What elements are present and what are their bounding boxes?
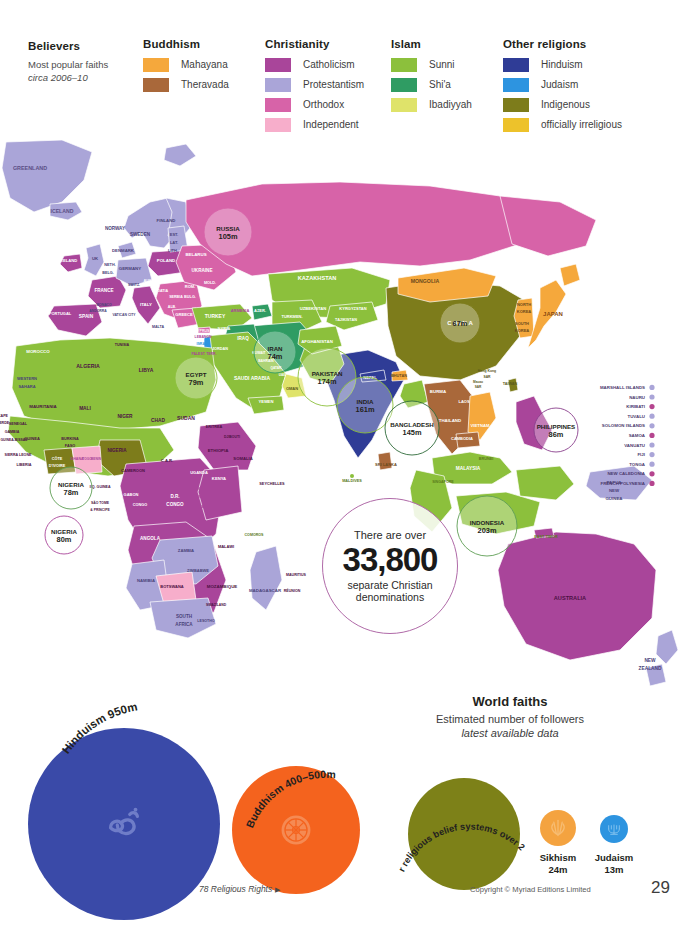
population-bubble[interactable]: RUSSIA105m [204, 208, 252, 256]
pacific-island-label: KIRIBATI [626, 404, 645, 409]
pacific-island-dot [649, 404, 654, 409]
legend-item-sunni[interactable]: Sunni [391, 57, 472, 72]
population-bubble[interactable]: BANGLADESH145m [385, 401, 439, 455]
legend-item-independent[interactable]: Independent [265, 117, 364, 132]
bubble-country-name: EGYPT [186, 371, 207, 378]
legend-group-christianity: Christianity Catholicism Protestantism O… [265, 38, 364, 137]
map-country-label: TURKEY [205, 313, 226, 319]
map-country-label: GERMANY [119, 266, 142, 271]
legend-item-label: Catholicism [303, 59, 355, 70]
dharma-wheel-symbol [232, 766, 360, 894]
map-country-label: & PRINCIPE [90, 508, 110, 512]
population-bubble[interactable]: IRAN74m [254, 331, 296, 373]
legend-subtitle: Most popular faiths circa 2006–10 [28, 59, 108, 84]
map-country-label: PORTUGAL [49, 311, 72, 316]
map-country-label: GREECE [175, 312, 193, 317]
bubble-value: 145m [403, 428, 422, 437]
map-country-label: UZBEKISTAN [300, 306, 327, 311]
map-country-label: IRELAND [59, 258, 78, 263]
bubble-country-name: RUSSIA [216, 225, 240, 232]
map-country-label: NIGER [117, 414, 133, 419]
pacific-island-label: FRENCH POLYNESIA [601, 481, 646, 486]
map-country-label: SWITZ. [128, 283, 140, 287]
legend-item-orthodox[interactable]: Orthodox [265, 97, 364, 112]
map-country-label: LIBERIA [16, 463, 31, 467]
population-bubble[interactable]: 67m [440, 303, 480, 343]
map-country-label: MAURITANIA [29, 404, 57, 409]
legend-item-indigenous[interactable]: Indigenous [503, 97, 622, 112]
bubble-country-name: INDONESIA [470, 519, 505, 526]
map-country-label: NAMIBIA [137, 578, 155, 583]
legend-heading: Believers [28, 40, 108, 52]
legend-item-mahayana[interactable]: Mahayana [143, 57, 229, 72]
map-country-label: ROM. [185, 284, 195, 289]
callout-description-line2: denominations [356, 591, 424, 603]
map-country-label: ALB. [168, 305, 176, 309]
map-country-label: ERITREA [206, 425, 223, 429]
map-country-label: ARMENIA [231, 308, 250, 313]
map-country-label: LIBYA [139, 367, 154, 373]
map-country-label: NEW [644, 658, 656, 663]
swatch-theravada [143, 78, 169, 92]
pacific-island-label: SOLOMON ISLANDS [602, 423, 645, 428]
legend-group-title: Christianity [265, 38, 364, 50]
world-map[interactable]: .cath{fill:#a9459a}.prot{fill:#aaa5d8}.o… [0, 140, 683, 700]
map-country-label: TURKMEN. [281, 314, 302, 319]
map-country-label: SÃO TOME [91, 500, 110, 505]
bubble-value: 105m [219, 232, 238, 241]
pacific-island-label: MARSHALL ISLANDS [600, 385, 645, 390]
map-country-label: MOZAMBIQUE [207, 584, 238, 589]
legend-item-irreligious[interactable]: officially irreligious [503, 117, 622, 132]
map-country-label: CAPE [0, 414, 9, 418]
map-country-label: SAUDI ARABIA [234, 375, 271, 381]
population-bubble[interactable]: INDIA161m [337, 377, 393, 433]
pacific-islands-list: MARSHALL ISLANDSNAURUKIRIBATITUVALUSOLOM… [600, 385, 655, 486]
map-country-label: POLAND [157, 258, 176, 263]
population-bubble[interactable]: PHILIPPINES86m [534, 408, 578, 452]
bubble-value: 67m [453, 319, 468, 328]
map-country-label: DENMARK [112, 248, 135, 253]
legend-item-judaism[interactable]: Judaism [503, 77, 622, 92]
map-country-label: AZER. [254, 308, 266, 313]
legend-item-label: Sunni [429, 59, 455, 70]
footer-copyright: Copyright © Myriad Editions Limited [470, 885, 591, 894]
faith-circle-other-belief-systems[interactable] [408, 778, 520, 890]
map-country-label: SWAZILAND [206, 603, 227, 607]
map-country-label: PALEST. TERR. [192, 352, 217, 356]
legend-item-catholicism[interactable]: Catholicism [265, 57, 364, 72]
map-country-label: BULG. [184, 295, 196, 299]
map-country-label: IRAQ [237, 336, 249, 341]
swatch-hinduism [503, 58, 529, 72]
population-bubble[interactable]: NIGERIA78m [50, 467, 92, 509]
map-country-label: NETH. [104, 263, 115, 267]
page-number: 29 [651, 878, 670, 898]
map-country-label: MONACO [96, 303, 112, 307]
population-bubble[interactable]: EGYPT79m [175, 357, 217, 399]
map-country-label: C.A.R. [161, 458, 174, 463]
legend-item-theravada[interactable]: Theravada [143, 77, 229, 92]
map-country-label: NORTH [517, 302, 531, 307]
legend-item-shia[interactable]: Shi'a [391, 77, 472, 92]
footer-crossreference[interactable]: 78 Religious Rights ▶ [199, 884, 280, 894]
legend-item-protestantism[interactable]: Protestantism [265, 77, 364, 92]
map-country-label: MALAYSIA [456, 466, 481, 471]
map-country-label: GUINEA [24, 436, 40, 441]
legend-item-hinduism[interactable]: Hinduism [503, 57, 622, 72]
map-country-label: ETHIOPIA [208, 448, 230, 453]
legend-item-label: Indigenous [541, 99, 590, 110]
pacific-island-label: SAMOA [629, 433, 646, 438]
faith-circle-judaism[interactable] [600, 815, 628, 843]
bubble-country-name: NIGERIA [51, 528, 77, 535]
faith-circle-sikhism[interactable] [540, 810, 576, 846]
map-country-label: ITALY [140, 302, 152, 307]
map-country-label: ZAMBIA [178, 548, 194, 553]
faith-circle-buddhism[interactable] [232, 766, 360, 894]
map-country-label: SEYCHELLES [259, 482, 285, 486]
map-country-label: SAHARA [18, 384, 35, 389]
population-bubble[interactable]: NIGERIA80m [45, 516, 83, 554]
population-bubble[interactable]: INDONESIA203m [457, 496, 517, 556]
legend-item-label: officially irreligious [541, 119, 622, 130]
legend-item-label: Hinduism [541, 59, 583, 70]
sikhism-name: Sikhism [540, 852, 576, 863]
legend-item-ibadiyyah[interactable]: Ibadiyyah [391, 97, 472, 112]
